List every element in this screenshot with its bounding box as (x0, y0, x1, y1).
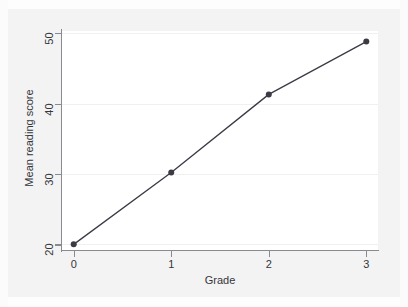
x-axis-tick-label: 0 (64, 258, 84, 270)
y-axis-tick (55, 174, 61, 175)
x-axis-tick-label: 1 (161, 258, 181, 270)
chart-figure: 20304050 0123 Mean reading score Grade (0, 0, 408, 307)
x-axis-tick-label: 3 (356, 258, 376, 270)
y-axis-tick-label: 50 (43, 32, 55, 72)
x-axis-tick (269, 251, 270, 257)
y-axis-tick (55, 104, 61, 105)
series-layer (62, 31, 378, 250)
y-axis-tick-label: 30 (43, 173, 55, 213)
figure-margin-top (0, 0, 408, 9)
figure-margin-right (400, 0, 408, 307)
data-point (363, 39, 369, 45)
x-axis-title: Grade (62, 274, 378, 286)
data-point (71, 241, 77, 247)
figure-margin-left (0, 0, 8, 307)
y-axis-tick (55, 33, 61, 34)
x-axis-line (61, 250, 379, 251)
x-axis-tick (74, 251, 75, 257)
x-axis-tick (366, 251, 367, 257)
series-line-mean-reading-score (74, 42, 367, 245)
y-axis-tick-label: 40 (43, 103, 55, 143)
data-point (266, 91, 272, 97)
figure-margin-bottom (0, 297, 408, 307)
y-axis-tick-label: 20 (43, 243, 55, 283)
plot-area (62, 31, 378, 250)
series-markers (71, 39, 370, 248)
y-axis-line (61, 29, 62, 252)
y-axis-tick (55, 244, 61, 245)
x-axis-tick-label: 2 (259, 258, 279, 270)
x-axis-tick (171, 251, 172, 257)
y-axis-title: Mean reading score (23, 78, 35, 198)
data-point (168, 170, 174, 176)
